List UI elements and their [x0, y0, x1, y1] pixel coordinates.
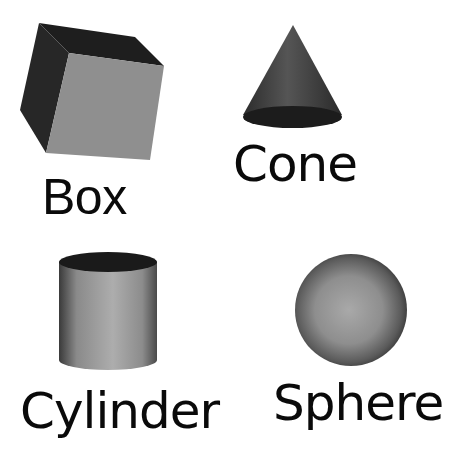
sphere-body [295, 254, 407, 366]
box-label: Box [42, 172, 127, 222]
sphere-shape [295, 254, 407, 366]
cylinder-body [59, 262, 157, 370]
cylinder-shape [59, 252, 157, 370]
box-shape [20, 23, 164, 160]
cone-base [243, 106, 342, 128]
cone-label: Cone [233, 139, 357, 189]
sphere-label: Sphere [273, 378, 443, 428]
shapes-figure: Box Cone Cylinder Sphere [0, 0, 460, 460]
cylinder-label: Cylinder [20, 386, 219, 436]
cylinder-top [59, 252, 157, 272]
cone-shape [243, 25, 342, 128]
cone-body [243, 25, 342, 115]
